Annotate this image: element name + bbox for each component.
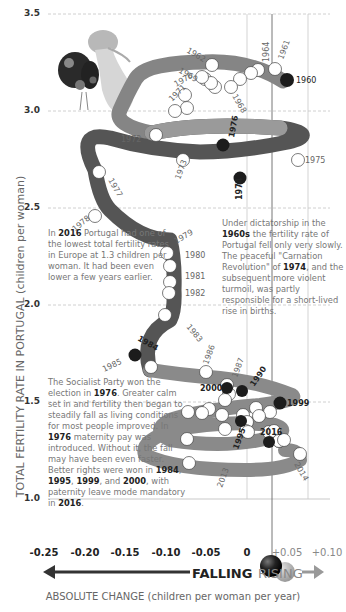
year-label: 1983 [184, 323, 204, 344]
year-label: 2016 [260, 428, 283, 437]
y-tick: 3.5 [24, 8, 40, 18]
year-label: 1981 [185, 272, 205, 281]
x-tick: 0 [244, 547, 251, 558]
year-label: 1979 [173, 228, 195, 246]
year-label: 1968 [230, 93, 248, 115]
year-label: 1964 [262, 42, 271, 62]
x-tick: -0.05 [192, 547, 221, 558]
annotation-1976: The Socialist Party won the election in … [48, 377, 188, 509]
x-axis-title: ABSOLUTE CHANGE (children per woman per … [0, 591, 346, 602]
year-label: 2014 [292, 461, 310, 483]
y-tick: 3.0 [24, 105, 40, 115]
falling-label: FALLING [192, 566, 252, 581]
x-tick: +0.10 [312, 547, 343, 558]
year-label: 1980 [185, 251, 205, 260]
year-label: 1975 [305, 156, 325, 165]
rising-label: RISING [258, 566, 303, 581]
year-label: 1985 [101, 357, 123, 374]
x-tick: -0.25 [30, 547, 59, 558]
x-tick: -0.10 [152, 547, 181, 558]
annotation-1960s: Under dictatorship in the 1960s the fert… [222, 218, 346, 317]
year-label: 1999 [287, 399, 310, 408]
x-tick: -0.15 [111, 547, 140, 558]
year-label: 1974 [235, 177, 244, 200]
year-label: 2000 [200, 384, 223, 393]
year-label: 1976 [227, 114, 240, 138]
x-tick: +0.05 [272, 547, 303, 558]
annotation-2016: In 2016 Portugal had one of the lowest t… [48, 228, 170, 283]
year-label: 1960 [296, 76, 316, 85]
y-axis-title: TOTAL FERTILITY RATE IN PORTUGAL (childr… [14, 157, 27, 517]
year-label: 1972 [121, 135, 141, 144]
year-label: 1961 [276, 38, 291, 60]
year-label: 1986 [201, 343, 216, 365]
x-tick: -0.20 [71, 547, 100, 558]
year-label: 1982 [185, 289, 205, 298]
year-label: 1973 [173, 158, 188, 180]
